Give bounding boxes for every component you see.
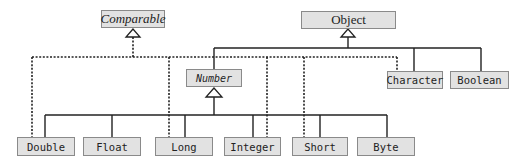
node-object: Object — [301, 11, 396, 29]
node-object-label: Object — [331, 12, 366, 28]
node-float-label: Float — [96, 141, 128, 153]
node-comparable: Comparable — [101, 10, 165, 28]
node-float: Float — [83, 137, 141, 156]
node-long: Long — [155, 137, 213, 156]
node-boolean-label: Boolean — [457, 74, 501, 86]
node-number: Number — [186, 69, 242, 87]
node-number-label: Number — [196, 73, 232, 84]
node-byte-label: Byte — [373, 141, 398, 153]
node-integer-label: Integer — [230, 141, 274, 153]
node-comparable-label: Comparable — [101, 11, 166, 27]
object-triangle-arrow — [341, 29, 355, 37]
node-double-label: Double — [27, 141, 65, 153]
node-integer: Integer — [224, 137, 281, 156]
class-hierarchy-diagram: Comparable Object Number Character Boole… — [0, 0, 524, 165]
inheritance-lines-object — [214, 37, 481, 71]
node-character-label: Character — [387, 74, 444, 86]
inheritance-lines-number — [45, 97, 387, 137]
node-double: Double — [17, 137, 75, 156]
node-boolean: Boolean — [450, 71, 509, 89]
node-byte: Byte — [357, 137, 415, 156]
node-long-label: Long — [171, 141, 196, 153]
number-triangle-arrow — [206, 88, 222, 97]
comparable-triangle-arrow — [126, 29, 140, 37]
node-short: Short — [292, 137, 348, 156]
node-character: Character — [387, 71, 443, 89]
node-short-label: Short — [304, 141, 336, 153]
